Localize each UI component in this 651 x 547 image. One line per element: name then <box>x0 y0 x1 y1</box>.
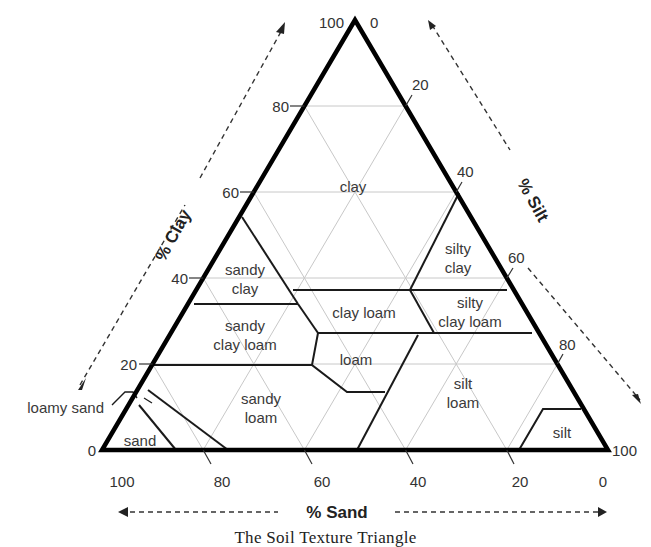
region-silt-loam: silt loam <box>447 375 480 411</box>
region-loamy-sand: loamy sand <box>27 399 104 416</box>
arrow-heads <box>78 20 641 517</box>
svg-text:silty: silty <box>457 294 483 311</box>
svg-text:40: 40 <box>457 163 474 180</box>
sand-arrow-icon <box>118 507 128 517</box>
svg-text:clay: clay <box>445 259 472 276</box>
svg-text:silt: silt <box>454 375 473 392</box>
region-labels: clay sandy clay silty clay sandy clay lo… <box>27 178 572 449</box>
svg-text:loam: loam <box>245 409 278 426</box>
region-sand: sand <box>124 432 157 449</box>
region-loam: loam <box>340 351 373 368</box>
grid-lines <box>153 106 558 450</box>
svg-text:20: 20 <box>512 473 529 490</box>
silt-axis-title: % Silt <box>513 175 552 225</box>
soil-texture-triangle: 0 20 40 60 80 100 0 20 40 60 80 100 100 … <box>0 0 651 547</box>
silt-tick-labels: 0 20 40 60 80 100 <box>370 14 637 459</box>
svg-text:0: 0 <box>88 442 96 459</box>
svg-text:sandy: sandy <box>241 390 282 407</box>
region-sandy-clay-loam: sandy clay loam <box>213 317 276 353</box>
svg-text:80: 80 <box>559 336 576 353</box>
svg-text:60: 60 <box>314 473 331 490</box>
region-sandy-clay: sandy clay <box>225 261 266 297</box>
figure-caption: The Soil Texture Triangle <box>0 528 651 547</box>
clay-arrow-tail-icon <box>78 378 86 390</box>
sand-tick-labels: 100 80 60 40 20 0 <box>109 473 607 490</box>
svg-text:loam: loam <box>447 394 480 411</box>
svg-text:0: 0 <box>370 14 378 31</box>
svg-text:0: 0 <box>599 473 607 490</box>
region-silty-clay: silty clay <box>445 240 472 276</box>
svg-text:clay loam: clay loam <box>438 313 501 330</box>
region-sandy-loam: sandy loam <box>241 390 282 426</box>
svg-text:silty: silty <box>445 240 471 257</box>
region-clay-loam: clay loam <box>332 304 395 321</box>
svg-text:40: 40 <box>171 270 188 287</box>
svg-text:20: 20 <box>412 76 429 93</box>
svg-text:100: 100 <box>612 442 637 459</box>
sand-arrow-tail-icon <box>598 507 607 517</box>
clay-axis-title: % Clay <box>151 206 195 264</box>
svg-text:100: 100 <box>109 473 134 490</box>
svg-text:sandy: sandy <box>225 261 266 278</box>
svg-text:clay: clay <box>232 280 259 297</box>
region-silt: silt <box>553 424 572 441</box>
svg-text:sandy: sandy <box>225 317 266 334</box>
svg-text:clay loam: clay loam <box>213 336 276 353</box>
sand-axis-title: % Sand <box>306 503 367 522</box>
region-clay: clay <box>340 178 367 195</box>
svg-text:60: 60 <box>508 249 525 266</box>
svg-text:20: 20 <box>120 356 137 373</box>
clay-arrow-icon <box>276 22 285 34</box>
region-silty-clay-loam: silty clay loam <box>438 294 501 330</box>
svg-text:40: 40 <box>410 473 427 490</box>
svg-text:100: 100 <box>319 14 344 31</box>
svg-text:60: 60 <box>222 184 239 201</box>
svg-text:80: 80 <box>272 98 289 115</box>
svg-text:80: 80 <box>214 473 231 490</box>
